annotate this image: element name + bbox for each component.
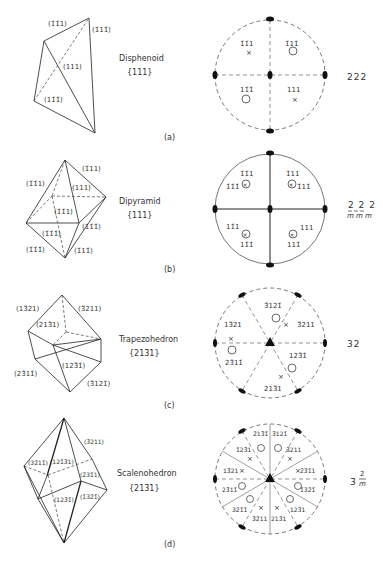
- face-label: (3̄121̄): [87, 380, 111, 388]
- twofold-axis-icon: [266, 17, 274, 22]
- face-label: (2̄31̄1): [80, 471, 100, 478]
- twofold-axis-icon: [266, 263, 274, 268]
- cross-icon: ×: [247, 455, 253, 463]
- pole-label: 111̄: [287, 241, 300, 249]
- pole-label: 3̄121̄: [272, 430, 287, 437]
- svg-text:2 2 2: 2 2 2: [348, 200, 376, 210]
- form-index: {213̄1}: [129, 349, 160, 358]
- pole-label: 13̄21: [224, 321, 242, 329]
- pole-label: 213̄1: [271, 515, 286, 522]
- twofold-axis-icon: [268, 71, 273, 79]
- point-group-symbol: 32: [347, 339, 360, 349]
- form-name: Dipyramid: [119, 197, 160, 206]
- twofold-axis-icon: [213, 205, 218, 213]
- pole-label: 1̄11̄: [285, 40, 298, 48]
- face-label: (111): [72, 184, 91, 192]
- threefold-axis-icon: [265, 337, 275, 346]
- pole-circle-icon: [247, 496, 254, 503]
- point-group-symbol: 222: [347, 72, 367, 82]
- pole-label: 23̄11̄: [225, 359, 243, 367]
- panel-caption: (a): [164, 133, 175, 142]
- svg-text:×: ×: [243, 231, 248, 238]
- cross-icon: ×: [292, 96, 298, 104]
- pole-label: 1̄1̄1̄: [226, 183, 239, 191]
- cross-icon: ×: [228, 335, 234, 343]
- cross-icon: ×: [287, 455, 293, 463]
- twofold-axis-icon: [323, 71, 328, 79]
- pole-label: 13̄21: [223, 467, 238, 474]
- form-name: Scalenohedron: [117, 469, 177, 478]
- crystal-forms-figure: (1̄1̄1) (1̄11̄) (111) (11̄1̄) Disphenoid…: [0, 0, 383, 562]
- cross-icon: ×: [258, 504, 264, 512]
- face-label: (1̄11̄): [92, 26, 111, 34]
- face-label: (123̄1̄): [62, 362, 86, 370]
- face-label: (121̄3̄1): [50, 458, 74, 465]
- svg-text:×: ×: [290, 231, 295, 238]
- panel-caption: (c): [164, 401, 175, 410]
- pole-label: 3̄211: [286, 446, 301, 453]
- twofold-axis-icon: [268, 205, 273, 213]
- pole-label: 32̄1̄1̄: [232, 506, 247, 513]
- pole-label: 1̄1̄1: [240, 170, 253, 178]
- twofold-axis-icon: [294, 523, 303, 530]
- form-index: {111}: [127, 68, 152, 77]
- threefold-rotoinversion-axis-icon: [265, 473, 275, 482]
- face-label: (11̄1̄): [44, 96, 63, 104]
- pole-label: 3̄2̄11: [252, 515, 267, 522]
- face-label: (123̄1̄): [54, 496, 74, 503]
- face-label: (1̄1̄1): [48, 20, 67, 28]
- panel-a: (1̄1̄1) (1̄11̄) (111) (11̄1̄) Disphenoid…: [34, 17, 367, 143]
- pole-label: 1̄32̄1̄: [300, 486, 315, 493]
- form-index: {213̄1}: [129, 484, 160, 493]
- pole-circle-icon: [258, 445, 265, 452]
- svg-text:m: m: [359, 480, 366, 488]
- pole-circle-icon: [289, 47, 297, 55]
- pole-label: 11̄1: [226, 223, 239, 231]
- twofold-axis-icon: [266, 151, 274, 156]
- face-label: (1̄1̄1̄): [42, 230, 61, 238]
- face-label: (3̄211): [78, 305, 102, 313]
- pole-label: 2̄3̄1̄1: [300, 467, 315, 474]
- panel-b: (1̄11) (1̄1̄1) (111) (1̄1̄1) (11̄1̄) (1̄…: [26, 151, 376, 275]
- twofold-axis-icon: [266, 129, 274, 134]
- pole-label: 213̄1: [264, 385, 282, 393]
- pole-label: 1̄1̄1: [240, 40, 253, 48]
- svg-text:×: ×: [243, 181, 248, 188]
- face-label: (1̄1̄1): [26, 180, 45, 188]
- face-label: (1̄11̄): [74, 247, 93, 255]
- twofold-axis-icon: [213, 475, 217, 483]
- twofold-axis-icon: [213, 71, 218, 79]
- face-label: (1̄1̄1): [54, 208, 73, 216]
- twofold-axis-icon: [213, 339, 217, 347]
- pole-label: 1̄11: [286, 170, 299, 178]
- form-name: Disphenoid: [119, 54, 164, 63]
- panel-d: (3̄211) (32̄11̄) (121̄3̄1) (2̄31̄1) (123…: [24, 418, 366, 549]
- svg-text:2: 2: [360, 470, 364, 478]
- pole-label: 23̄11̄: [222, 486, 237, 493]
- form-index: {111}: [127, 211, 152, 220]
- face-label: (213̄1): [36, 321, 60, 329]
- pole-label: 11̄1̄: [240, 86, 253, 94]
- stereogram-c: 3̄121̄ × 13̄21 3̄211 × 23̄11̄ 123̄1̄ × 2…: [213, 288, 327, 398]
- stereogram-d: 2̄13̄1̄ 3̄121̄ 1̄23̄1 3̄211 × × 13̄21 × …: [213, 424, 327, 534]
- cross-icon: ×: [239, 467, 245, 475]
- form-name: Trapezohedron: [118, 335, 178, 344]
- panel-caption: (d): [164, 540, 175, 549]
- face-label: (1̄1̄1̄): [26, 246, 45, 254]
- twofold-axis-icon: [294, 291, 303, 298]
- face-label: (13̄21): [16, 305, 40, 313]
- twofold-axis-icon: [294, 387, 303, 394]
- cross-icon: ×: [274, 504, 280, 512]
- pole-label: 3̄211: [297, 321, 315, 329]
- face-label: (1̄11): [82, 165, 101, 173]
- pole-circle-icon: [288, 364, 296, 372]
- pole-label: 2̄13̄1̄: [253, 430, 268, 437]
- point-group-symbol: 3̄ 2 m: [350, 470, 366, 488]
- face-label: (23̄11̄): [14, 370, 38, 378]
- face-label: (1̄32̄1̄): [80, 493, 100, 500]
- pole-label: 111: [300, 224, 313, 232]
- svg-text:m m m: m m m: [347, 212, 372, 220]
- cross-icon: ×: [283, 321, 289, 329]
- pole-label: 1̄11̄: [297, 183, 310, 191]
- pole-circle-icon: [287, 496, 294, 503]
